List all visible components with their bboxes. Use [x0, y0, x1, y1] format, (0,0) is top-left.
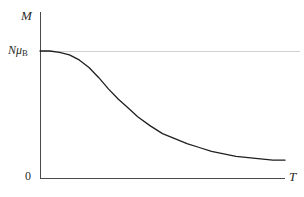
magnetization-curve: [40, 51, 285, 160]
y-tick-saturation-subscript: B: [22, 48, 28, 58]
figure-magnetization-vs-temperature: M NμB 0 T: [0, 0, 304, 197]
x-axis-title: T: [289, 170, 296, 183]
y-tick-saturation-n: N: [8, 43, 16, 57]
plot-canvas: [0, 0, 304, 197]
y-tick-label-saturation: NμB: [8, 44, 28, 58]
y-tick-label-zero: 0: [25, 170, 31, 182]
y-axis-title: M: [21, 9, 32, 22]
